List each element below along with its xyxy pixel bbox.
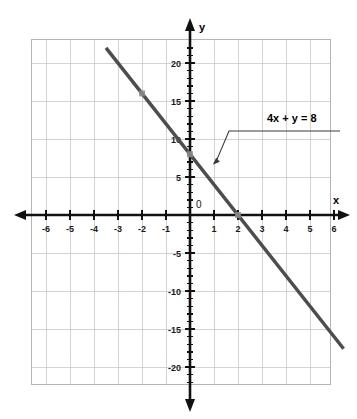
- line-marker: [139, 90, 145, 96]
- x-tick-label: 5: [307, 224, 312, 234]
- x-tick-label: 4: [283, 224, 288, 234]
- y-tick-label: -10: [168, 287, 181, 297]
- y-tick-label: 20: [171, 59, 181, 69]
- x-tick-label: 2: [235, 224, 240, 234]
- x-tick-label: 6: [331, 224, 336, 234]
- origin-label: 0: [196, 199, 202, 210]
- equation-label: 4x + y = 8: [267, 112, 317, 124]
- x-tick-label: 3: [259, 224, 264, 234]
- y-tick-label: 5: [176, 173, 181, 183]
- x-tick-label: -2: [138, 224, 146, 234]
- y-tick-label: -20: [168, 363, 181, 373]
- x-tick-label: -6: [42, 224, 50, 234]
- line-marker: [187, 151, 193, 157]
- y-axis-label: y: [199, 21, 206, 33]
- x-tick-label: 1: [211, 224, 216, 234]
- y-tick-label: 15: [171, 97, 181, 107]
- y-tick-label: -15: [168, 325, 181, 335]
- x-tick-label: -1: [162, 224, 170, 234]
- graph-figure: -6-5-4-3-2-1123456-20-15-10-55101520 0 y…: [0, 0, 357, 419]
- x-tick-label: -5: [66, 224, 74, 234]
- x-tick-label: -4: [90, 224, 98, 234]
- x-axis-label: x: [333, 194, 340, 206]
- line-marker: [235, 212, 241, 218]
- coordinate-plane-chart: -6-5-4-3-2-1123456-20-15-10-55101520 0 y…: [0, 0, 357, 419]
- y-tick-label: -5: [173, 249, 181, 259]
- x-tick-label: -3: [114, 224, 122, 234]
